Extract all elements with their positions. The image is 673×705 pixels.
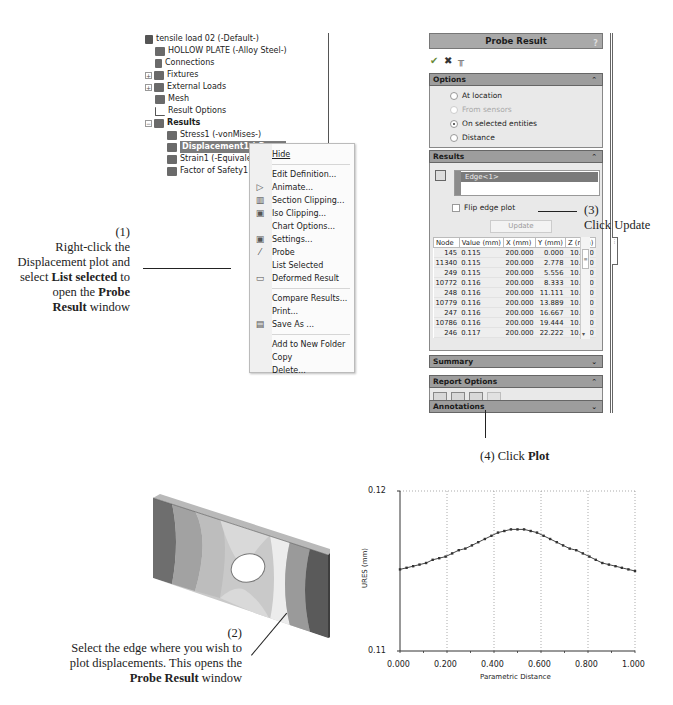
- plate-side-face[interactable]: [328, 550, 330, 638]
- collapse-chevron-icon: ⌃: [591, 74, 597, 86]
- menu-item-probe[interactable]: ⁄Probe: [250, 246, 354, 259]
- table-cell: 248: [434, 288, 460, 298]
- table-row[interactable]: 2490.115200.0005.55610.000: [434, 268, 596, 278]
- panel-title: Probe Result ?: [429, 33, 603, 49]
- data-point: [477, 541, 479, 543]
- selected-entities-list[interactable]: Edge<1>: [454, 170, 600, 196]
- menu-item-settings[interactable]: ▣Settings...: [250, 233, 354, 246]
- x-tick-label: 1.000: [622, 660, 645, 669]
- options-section-header[interactable]: Options⌃: [429, 73, 603, 86]
- ok-icon[interactable]: ✔: [430, 55, 438, 66]
- y-tick-label: 0.12: [368, 486, 386, 495]
- table-cell: 22.222: [536, 328, 566, 338]
- tree-item-part[interactable]: HOLLOW PLATE (-Alloy Steel-): [155, 45, 287, 57]
- table-cell: 11340: [434, 258, 460, 268]
- menu-separator: [272, 288, 350, 289]
- radio-distance[interactable]: Distance: [450, 132, 495, 144]
- table-cell: 19.444: [536, 318, 566, 328]
- data-point: [601, 562, 603, 564]
- expand-icon[interactable]: +: [145, 84, 152, 91]
- radio-on-selected-entities[interactable]: On selected entities: [450, 118, 537, 130]
- cancel-icon[interactable]: ✖: [444, 55, 452, 66]
- selected-edge-item[interactable]: Edge<1>: [461, 172, 598, 182]
- callout-step3: (3) Click Update: [584, 203, 650, 233]
- radio-at-location[interactable]: At location: [450, 90, 502, 102]
- table-cell: 0.115: [459, 248, 503, 258]
- menu-item-hide[interactable]: Hide: [250, 148, 354, 161]
- ures-probe-chart: 0.12 0.11 0.000 0.200 0.400 0.600 0.800 …: [355, 482, 673, 682]
- expand-icon[interactable]: +: [145, 72, 152, 79]
- panel-resize-handle[interactable]: ⋮: [612, 237, 618, 265]
- deformed-result-icon: ▭: [255, 274, 265, 283]
- column-header[interactable]: X (mm): [504, 238, 536, 248]
- summary-section-header[interactable]: Summary⌄: [429, 355, 603, 368]
- menu-item-compare-results[interactable]: Compare Results...: [250, 292, 354, 305]
- menu-item-print[interactable]: Print...: [250, 305, 354, 318]
- scroll-down-icon[interactable]: ▾: [582, 330, 585, 337]
- tree-item-stress1[interactable]: Stress1 (-vonMises-): [167, 129, 261, 141]
- report-options-section-header[interactable]: Report Options⌃: [429, 375, 603, 388]
- table-row[interactable]: 2480.116200.00011.11110.000: [434, 288, 596, 298]
- data-point: [412, 565, 414, 567]
- menu-item-edit-definition[interactable]: Edit Definition...: [250, 168, 354, 181]
- column-header[interactable]: Y (mm): [536, 238, 566, 248]
- tree-root[interactable]: tensile load 02 (-Default-): [145, 33, 259, 45]
- tree-item-fixtures[interactable]: + Fixtures: [145, 69, 198, 81]
- callout-step4: (4) Click Plot: [480, 449, 549, 464]
- radio-icon: [450, 134, 458, 142]
- probe-results-table: Node Value (mm) X (mm) Y (mm) Z (mm) 145…: [433, 237, 596, 338]
- column-header[interactable]: Node: [434, 238, 460, 248]
- menu-item-copy[interactable]: Copy: [250, 351, 354, 364]
- data-point: [425, 562, 427, 564]
- external-loads-icon: [154, 83, 164, 92]
- results-section-header[interactable]: Results⌃: [429, 150, 603, 163]
- x-axis-label: Parametric Distance: [480, 673, 551, 681]
- table-row[interactable]: 2470.116200.00016.66710.000: [434, 308, 596, 318]
- scrollbar-thumb[interactable]: ≡: [582, 249, 589, 269]
- table-cell: 0.116: [459, 278, 503, 288]
- table-row[interactable]: 107790.116200.00013.88910.000: [434, 298, 596, 308]
- menu-item-iso-clipping[interactable]: ▣Iso Clipping...: [250, 207, 354, 220]
- table-row[interactable]: 2460.117200.00022.22210.000: [434, 328, 596, 338]
- x-tick-label: 0.400: [481, 660, 504, 669]
- menu-item-delete[interactable]: Delete...: [250, 364, 354, 377]
- column-header[interactable]: Value (mm): [459, 238, 503, 248]
- menu-item-list-selected[interactable]: List Selected: [250, 259, 354, 272]
- menu-separator: [272, 334, 350, 335]
- menu-separator: [272, 164, 350, 165]
- callout-step1-leader: [143, 268, 231, 269]
- tree-item-results[interactable]: − Results: [145, 117, 200, 129]
- tree-item-connections[interactable]: Connections: [155, 57, 214, 69]
- callout-step1: (1) Right-click the Displacement plot an…: [0, 225, 130, 315]
- table-row[interactable]: 107720.116200.0008.33310.000: [434, 278, 596, 288]
- menu-item-add-to-new-folder[interactable]: Add to New Folder: [250, 338, 354, 351]
- context-menu: Hide Edit Definition... ▷Animate... ▥Sec…: [249, 143, 355, 373]
- radio-from-sensors: From sensors: [450, 104, 512, 116]
- menu-item-section-clipping[interactable]: ▥Section Clipping...: [250, 194, 354, 207]
- table-row[interactable]: 113400.115200.0002.77810.000: [434, 258, 596, 268]
- data-point: [575, 549, 577, 551]
- table-scrollbar[interactable]: ≡ ▾: [580, 237, 590, 339]
- menu-item-animate[interactable]: ▷Animate...: [250, 181, 354, 194]
- menu-item-deformed-result[interactable]: ▭Deformed Result: [250, 272, 354, 285]
- menu-item-chart-options[interactable]: Chart Options...: [250, 220, 354, 233]
- tree-item-result-options[interactable]: Result Options: [155, 105, 226, 117]
- data-point: [516, 528, 518, 530]
- annotations-section-header[interactable]: Annotations⌄: [429, 400, 603, 413]
- table-row[interactable]: 1450.115200.0000.00010.000: [434, 248, 596, 258]
- pin-icon[interactable]: ╥: [458, 55, 464, 66]
- help-icon[interactable]: ?: [593, 36, 598, 51]
- update-button[interactable]: Update: [490, 220, 552, 233]
- menu-item-save-as[interactable]: ▤Save As ...: [250, 318, 354, 331]
- flip-edge-plot-checkbox[interactable]: Flip edge plot: [452, 203, 515, 212]
- tree-item-external-loads[interactable]: + External Loads: [145, 81, 226, 93]
- table-row[interactable]: 107860.116200.00019.44410.000: [434, 318, 596, 328]
- data-point: [614, 565, 616, 567]
- fixtures-icon: [154, 71, 164, 80]
- data-point: [497, 531, 499, 533]
- collapse-icon[interactable]: −: [145, 120, 152, 127]
- tree-item-mesh[interactable]: Mesh: [155, 93, 189, 105]
- callout-step2: (2) Select the edge where you wish to pl…: [20, 626, 242, 686]
- data-point: [536, 531, 538, 533]
- x-tick-label: 0.000: [387, 660, 410, 669]
